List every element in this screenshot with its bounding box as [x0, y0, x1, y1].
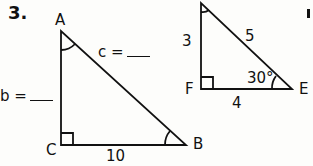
angle-arc-b: [165, 131, 170, 145]
vertex-label-a: A: [55, 13, 65, 28]
side-b-text: b =: [0, 87, 27, 105]
side-c-label: c =: [98, 44, 150, 60]
side-b-label: b =: [0, 88, 53, 104]
vertex-label-c: C: [46, 143, 56, 158]
side-c-text: c =: [98, 43, 124, 61]
edge-mark: [307, 9, 310, 18]
problem-number: 3.: [8, 4, 27, 22]
angle-arc-top: [201, 10, 209, 12]
right-angle-mark-c: [61, 133, 73, 145]
vertex-label-b: B: [193, 137, 203, 152]
angle-e-value: 30°: [247, 71, 274, 86]
vertex-label-e: E: [299, 82, 308, 97]
side-horizontal-value: 4: [232, 96, 242, 111]
side-hypotenuse-value: 5: [245, 29, 255, 44]
side-a-value: 10: [106, 149, 125, 164]
side-vertical-value: 3: [182, 34, 192, 49]
side-b-blank[interactable]: [30, 88, 53, 101]
vertex-label-f: F: [185, 82, 194, 97]
right-angle-mark-f: [201, 77, 213, 89]
side-c-blank[interactable]: [127, 44, 150, 57]
angle-arc-a: [61, 44, 75, 50]
